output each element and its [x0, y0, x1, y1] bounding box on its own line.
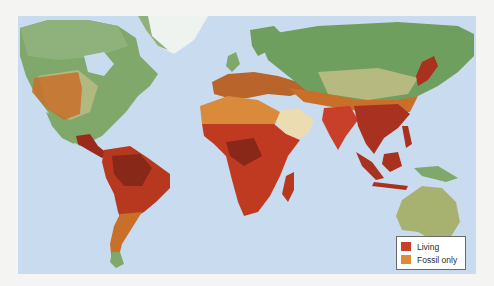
central-america-living [76, 134, 108, 158]
legend-item-fossil-only: Fossil only [401, 253, 461, 266]
british-isles [226, 52, 240, 72]
sumatra-living [356, 152, 384, 180]
africa-living [202, 124, 300, 216]
india-living [322, 106, 358, 150]
legend-label-fossil-only: Fossil only [417, 255, 457, 265]
legend-label-living: Living [417, 242, 439, 252]
madagascar-living [282, 172, 294, 202]
borneo-living [382, 152, 402, 172]
southeast-asia-living [354, 104, 410, 154]
fossil-range-north-america [32, 72, 82, 120]
java-living [372, 182, 408, 190]
south-america-tip [110, 252, 124, 268]
australia [396, 186, 460, 240]
new-guinea [414, 166, 458, 182]
fossil-only-swatch [401, 255, 411, 264]
legend-item-living: Living [401, 240, 461, 253]
living-swatch [401, 242, 411, 251]
map-legend: Living Fossil only [396, 236, 466, 270]
philippines-living [402, 126, 412, 148]
north-africa-fossil [200, 96, 280, 128]
